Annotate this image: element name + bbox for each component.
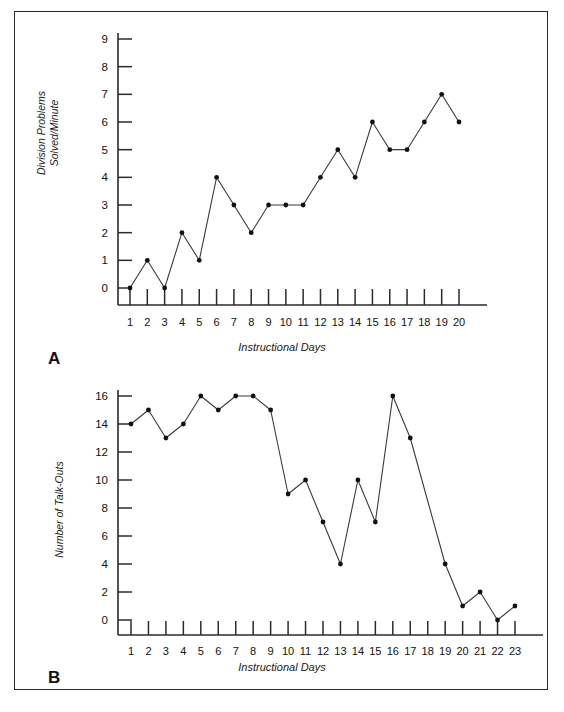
x-tick-label: 15 (369, 645, 381, 657)
x-tick-label: 19 (436, 316, 448, 328)
x-tick-label: 8 (248, 316, 254, 328)
y-tick-label: 0 (78, 614, 108, 626)
x-tick-label: 8 (250, 645, 256, 657)
x-tick-label: 6 (215, 645, 221, 657)
x-tick-label: 10 (280, 316, 292, 328)
x-tick-label: 11 (300, 645, 311, 657)
x-tick-label: 18 (422, 645, 434, 657)
y-tick-label: 1 (78, 254, 108, 266)
x-tick-label: 9 (268, 645, 274, 657)
x-tick-label: 22 (491, 645, 503, 657)
panel-b-y-axis-title: Number of Talk-Outs (53, 435, 66, 585)
figure-page: Division Problems Solved/Minute A Instru… (0, 0, 564, 712)
y-tick-label: 4 (78, 558, 108, 570)
y-tick-label: 10 (78, 474, 108, 486)
x-tick-label: 20 (457, 645, 469, 657)
x-tick-label: 5 (196, 316, 202, 328)
x-tick-label: 7 (231, 316, 237, 328)
x-tick-label: 1 (127, 316, 133, 328)
x-tick-label: 4 (180, 645, 186, 657)
y-tick-label: 6 (78, 530, 108, 542)
x-tick-label: 14 (352, 645, 364, 657)
x-tick-label: 12 (317, 645, 329, 657)
x-tick-label: 7 (233, 645, 239, 657)
panel-b-x-axis-title: Instructional Days (0, 661, 564, 673)
y-tick-label: 14 (78, 418, 108, 430)
x-tick-label: 17 (401, 316, 413, 328)
y-tick-label: 8 (78, 502, 108, 514)
x-tick-label: 21 (474, 645, 486, 657)
x-tick-label: 3 (162, 316, 168, 328)
y-tick-label: 4 (78, 171, 108, 183)
x-tick-label: 12 (314, 316, 326, 328)
x-tick-label: 17 (404, 645, 416, 657)
x-tick-label: 6 (214, 316, 220, 328)
x-tick-label: 16 (387, 645, 399, 657)
x-tick-label: 14 (349, 316, 361, 328)
x-tick-label: 23 (509, 645, 521, 657)
x-tick-label: 19 (439, 645, 451, 657)
panel-a: Division Problems Solved/Minute A Instru… (0, 0, 564, 400)
x-tick-label: 3 (163, 645, 169, 657)
y-tick-label: 2 (78, 227, 108, 239)
x-tick-label: 16 (384, 316, 396, 328)
y-tick-label: 3 (78, 199, 108, 211)
x-tick-label: 10 (282, 645, 294, 657)
y-tick-label: 5 (78, 144, 108, 156)
x-tick-label: 1 (128, 645, 134, 657)
y-tick-label: 16 (78, 390, 108, 402)
x-tick-label: 4 (179, 316, 185, 328)
x-tick-label: 18 (418, 316, 430, 328)
x-tick-label: 2 (144, 316, 150, 328)
panel-a-y-axis-title: Division Problems Solved/Minute (35, 68, 61, 198)
y-tick-label: 7 (78, 88, 108, 100)
y-tick-label: 8 (78, 61, 108, 73)
x-tick-label: 2 (145, 645, 151, 657)
x-tick-label: 13 (334, 645, 346, 657)
x-tick-label: 15 (366, 316, 378, 328)
y-tick-label: 9 (78, 33, 108, 45)
x-tick-label: 9 (265, 316, 271, 328)
y-tick-label: 12 (78, 446, 108, 458)
x-tick-label: 11 (297, 316, 308, 328)
panel-b: Number of Talk-Outs B Instructional Days… (0, 378, 564, 712)
y-tick-label: 2 (78, 586, 108, 598)
panel-a-x-axis-title: Instructional Days (0, 341, 564, 353)
x-tick-label: 20 (453, 316, 465, 328)
x-tick-label: 13 (332, 316, 344, 328)
y-tick-label: 0 (78, 282, 108, 294)
y-tick-label: 6 (78, 116, 108, 128)
x-tick-label: 5 (198, 645, 204, 657)
